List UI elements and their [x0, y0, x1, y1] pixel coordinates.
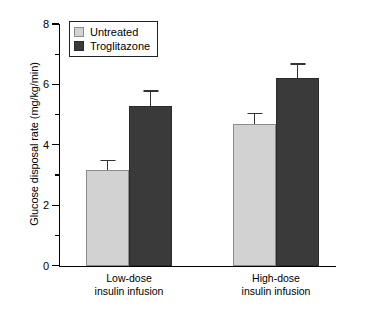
group-label-line1: High-dose [206, 272, 346, 285]
y-tick-major [52, 205, 59, 206]
bar-untreated-group1 [233, 124, 276, 266]
y-tick-major [52, 144, 59, 145]
x-axis-group-label-low-dose: Low-dose insulin infusion [59, 272, 199, 297]
legend-item-label: Untreated [90, 27, 138, 38]
error-bar-line [297, 63, 298, 78]
y-axis-line [59, 24, 60, 267]
y-tick-label: 2 [43, 200, 49, 211]
group-label-line2: insulin infusion [59, 285, 199, 298]
group-label-line1: Low-dose [59, 272, 199, 285]
x-axis-line [59, 266, 336, 267]
y-tick-label: 8 [43, 19, 49, 30]
error-bar-line [150, 90, 151, 105]
dark-gray-swatch-icon [74, 41, 84, 51]
error-bar-line [107, 160, 108, 171]
bar-untreated-group0 [86, 170, 129, 265]
y-tick-minor [55, 174, 59, 175]
y-tick-label: 0 [43, 260, 49, 271]
light-gray-swatch-icon [74, 27, 84, 37]
error-bar-cap [247, 113, 262, 114]
y-axis-title: Glucose disposal rate (mg/kg/min) [28, 24, 40, 264]
plot-area: 02468 [59, 24, 336, 267]
legend-item-untreated: Untreated [74, 25, 150, 39]
legend-item-troglitazone: Troglitazone [74, 39, 150, 53]
bar-troglitazone-group0 [129, 106, 172, 266]
group-label-line2: insulin infusion [206, 285, 346, 298]
error-bar-cap [100, 160, 115, 161]
error-bar-cap [290, 63, 305, 64]
y-tick-label: 6 [43, 79, 49, 90]
legend-item-label: Troglitazone [90, 41, 150, 52]
y-tick-major [52, 84, 59, 85]
y-tick-major [52, 23, 59, 24]
bar-chart-figure: Glucose disposal rate (mg/kg/min) 02468 … [0, 0, 371, 311]
y-tick-minor [55, 235, 59, 236]
chart-legend: Untreated Troglitazone [69, 21, 158, 57]
y-tick-major [52, 265, 59, 266]
error-bar-line [254, 113, 255, 124]
error-bar-cap [143, 90, 158, 91]
x-axis-group-label-high-dose: High-dose insulin infusion [206, 272, 346, 297]
bar-troglitazone-group1 [276, 78, 319, 265]
y-tick-minor [55, 114, 59, 115]
y-tick-minor [55, 54, 59, 55]
y-tick-label: 4 [43, 139, 49, 150]
